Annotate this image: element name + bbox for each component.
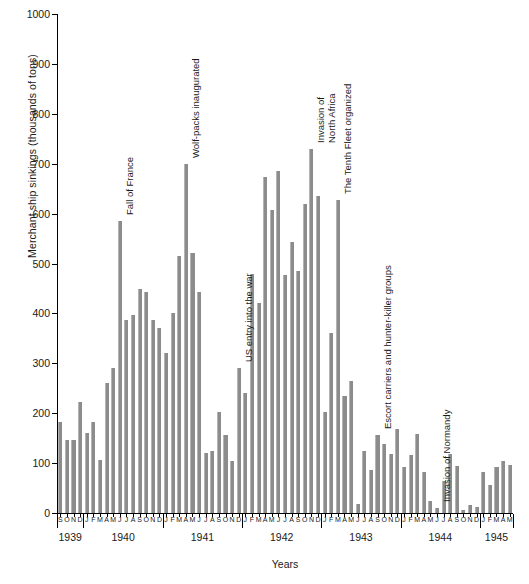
y-axis-tick-label: 900 xyxy=(32,58,50,70)
bar xyxy=(468,505,472,513)
year-separator xyxy=(242,514,243,528)
bar xyxy=(435,508,439,513)
bar xyxy=(85,433,89,513)
chart-annotation: Invasion of Normandy xyxy=(441,409,452,501)
y-axis-tick-label: 300 xyxy=(32,357,50,369)
year-separator xyxy=(163,514,164,528)
bar xyxy=(131,315,135,513)
year-separator xyxy=(480,514,481,528)
bar xyxy=(190,253,194,513)
figure-caption xyxy=(16,574,516,584)
y-axis-tick-label: 200 xyxy=(32,407,50,419)
y-axis-tick-label: 1000 xyxy=(27,8,50,20)
bar xyxy=(422,472,426,513)
bar xyxy=(78,402,82,513)
bar xyxy=(171,313,175,513)
bar xyxy=(151,320,155,513)
y-axis-tick-label: 100 xyxy=(32,457,50,469)
bar xyxy=(105,383,109,513)
bar xyxy=(197,292,201,513)
bar xyxy=(65,440,69,513)
bar xyxy=(501,461,505,513)
bar xyxy=(263,177,267,513)
year-labels: 1939194019411942194319441945 xyxy=(57,514,513,554)
bar xyxy=(204,453,208,513)
bar xyxy=(382,444,386,513)
bar xyxy=(118,221,122,513)
y-axis-tick-label: 0 xyxy=(44,507,50,519)
chart-annotation: The Tenth Fleet organized xyxy=(342,84,353,194)
chart-annotation: US entry into the war xyxy=(243,274,254,363)
bar xyxy=(270,210,274,513)
bar xyxy=(402,467,406,513)
year-separator xyxy=(321,514,322,528)
bar xyxy=(184,164,188,513)
bar xyxy=(428,501,432,513)
y-axis-tick-label: 500 xyxy=(32,258,50,270)
y-axis-tick-label: 800 xyxy=(32,108,50,120)
year-label: 1940 xyxy=(111,531,134,543)
chart-annotation: Fall of France xyxy=(124,157,135,215)
bar xyxy=(356,504,360,513)
bar xyxy=(309,149,313,513)
annotation-line: Invasion of xyxy=(315,94,326,144)
bar xyxy=(508,465,512,513)
year-label: 1939 xyxy=(59,531,82,543)
bar xyxy=(71,440,75,513)
y-axis-tick-label: 600 xyxy=(32,208,50,220)
bar xyxy=(157,328,161,513)
year-separator xyxy=(83,514,84,528)
annotation-line: North Africa xyxy=(326,94,337,144)
bar xyxy=(475,507,479,513)
year-separator xyxy=(513,514,514,528)
y-axis-title: Merchant ship sinkings (thousands of ton… xyxy=(26,46,38,266)
bar xyxy=(237,368,241,513)
bar xyxy=(362,451,366,513)
bar xyxy=(316,196,320,513)
bar xyxy=(111,368,115,513)
bar xyxy=(303,204,307,513)
bar xyxy=(296,271,300,513)
year-separator xyxy=(401,514,402,528)
bar xyxy=(409,455,413,513)
bar xyxy=(144,292,148,513)
bar xyxy=(389,454,393,513)
bar xyxy=(164,353,168,513)
bar xyxy=(488,485,492,513)
bar xyxy=(217,412,221,513)
bar xyxy=(455,466,459,513)
bar xyxy=(329,333,333,513)
bar xyxy=(494,467,498,513)
plot-area: 01002003004005006007008009001000 Fall of… xyxy=(57,14,513,513)
year-label: 1942 xyxy=(270,531,293,543)
year-label: 1943 xyxy=(349,531,372,543)
bar xyxy=(91,422,95,513)
bar xyxy=(138,289,142,513)
bar xyxy=(369,470,373,513)
bar xyxy=(290,242,294,513)
bar xyxy=(177,256,181,513)
bar xyxy=(283,275,287,513)
bar xyxy=(230,461,234,513)
year-label: 1944 xyxy=(429,531,452,543)
bar xyxy=(243,393,247,513)
bar xyxy=(58,422,62,513)
bar xyxy=(98,460,102,513)
bar xyxy=(223,435,227,513)
bar xyxy=(461,510,465,513)
bar xyxy=(336,200,340,513)
bar xyxy=(342,396,346,513)
bar xyxy=(375,435,379,513)
bar xyxy=(257,303,261,513)
bar xyxy=(323,412,327,513)
bar xyxy=(124,320,128,513)
chart-figure: Merchant ship sinkings (thousands of ton… xyxy=(0,0,529,584)
bar xyxy=(395,429,399,513)
bar xyxy=(415,434,419,513)
year-label: 1941 xyxy=(191,531,214,543)
bar xyxy=(276,171,280,513)
chart-annotation: Wolf-packs inaugurated xyxy=(190,58,201,158)
chart-annotation: Escort carriers and hunter-killer groups xyxy=(382,265,393,429)
y-axis-tick-label: 400 xyxy=(32,307,50,319)
bar xyxy=(210,451,214,513)
